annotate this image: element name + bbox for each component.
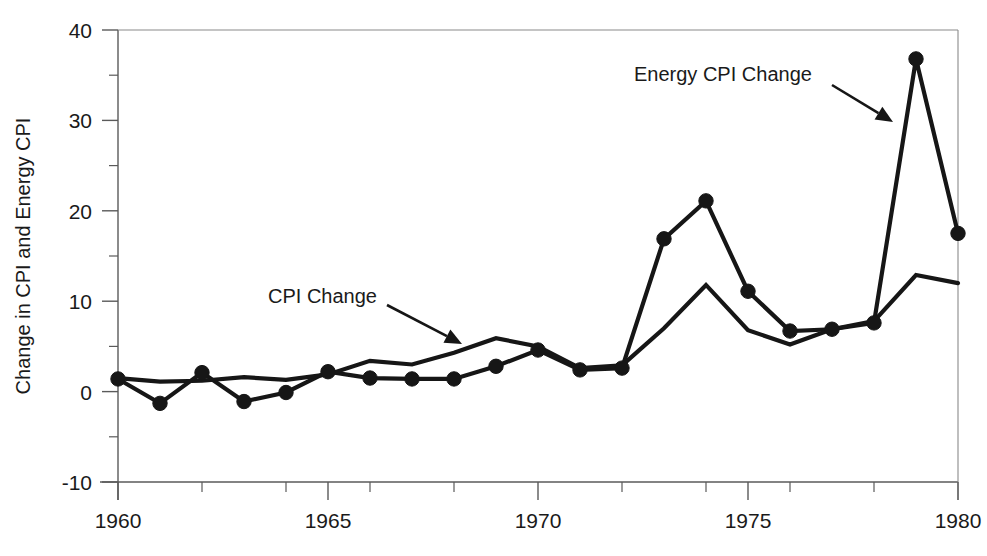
data-point-marker <box>657 232 671 246</box>
data-point-marker <box>363 371 377 385</box>
energy-cpi-change-annotation-label: Energy CPI Change <box>634 63 812 85</box>
y-tick-label: 10 <box>69 290 92 313</box>
y-tick-label: 40 <box>69 19 92 42</box>
x-tick-label: 1960 <box>95 509 142 532</box>
data-point-marker <box>699 194 713 208</box>
data-point-marker <box>111 372 125 386</box>
data-point-marker <box>909 52 923 66</box>
cpi-change-annotation-label: CPI Change <box>268 285 377 307</box>
data-point-marker <box>867 316 881 330</box>
y-tick-label: -10 <box>62 471 92 494</box>
data-point-marker <box>615 361 629 375</box>
y-axis-title: Change in CPI and Energy CPI <box>12 118 34 395</box>
data-point-marker <box>951 226 965 240</box>
cpi-energy-cpi-line-chart: -10010203040 19601965197019751980 Change… <box>0 0 987 556</box>
data-point-marker <box>195 365 209 379</box>
data-point-marker <box>825 322 839 336</box>
y-tick-label: 20 <box>69 200 92 223</box>
x-tick-label: 1970 <box>515 509 562 532</box>
y-tick-label: 30 <box>69 109 92 132</box>
data-point-marker <box>279 385 293 399</box>
data-point-marker <box>783 324 797 338</box>
x-tick-label: 1965 <box>305 509 352 532</box>
data-point-marker <box>321 365 335 379</box>
x-tick-label: 1975 <box>725 509 772 532</box>
data-point-marker <box>447 372 461 386</box>
data-point-marker <box>405 372 419 386</box>
data-point-marker <box>573 363 587 377</box>
data-point-marker <box>237 394 251 408</box>
data-point-marker <box>489 359 503 373</box>
data-point-marker <box>531 343 545 357</box>
chart-background <box>0 0 987 556</box>
data-point-marker <box>153 396 167 410</box>
chart-container: -10010203040 19601965197019751980 Change… <box>0 0 987 556</box>
y-tick-label: 0 <box>80 381 92 404</box>
data-point-marker <box>741 284 755 298</box>
x-tick-label: 1980 <box>935 509 982 532</box>
